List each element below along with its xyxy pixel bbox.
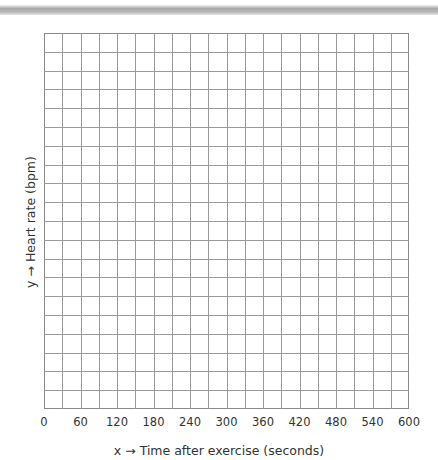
x-tick-label: 420 [289, 415, 311, 429]
top-shaded-bar [0, 5, 438, 15]
x-tick-label: 360 [252, 415, 274, 429]
x-tick-label: 540 [362, 415, 384, 429]
grid-lines [44, 33, 409, 409]
x-tick-label: 0 [40, 415, 47, 429]
x-tick-label: 600 [398, 415, 420, 429]
x-tick-label: 180 [143, 415, 165, 429]
plot-area [44, 33, 409, 409]
x-tick-label: 480 [325, 415, 347, 429]
y-axis-label: y → Heart rate (bpm) [23, 156, 38, 288]
x-tick-label: 300 [216, 415, 238, 429]
x-tick-label: 60 [73, 415, 88, 429]
x-tick-label: 120 [106, 415, 128, 429]
x-axis-label: x → Time after exercise (seconds) [0, 443, 438, 458]
x-tick-label: 240 [179, 415, 201, 429]
